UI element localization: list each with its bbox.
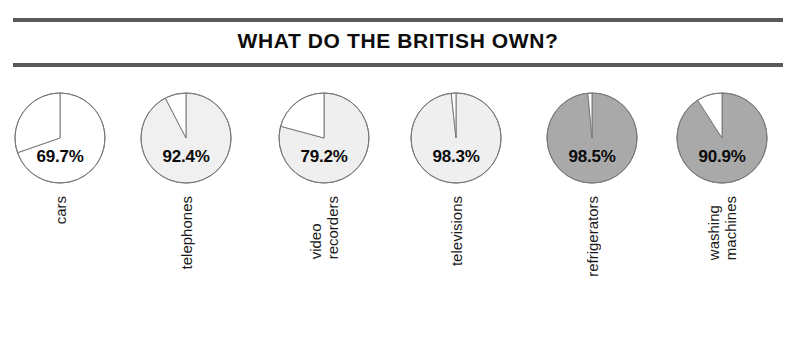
pie-category-label: cars	[0, 196, 130, 216]
pie-cell-video-recorders: 79.2%video recorders	[260, 88, 388, 343]
pie-graphic-telephones: 92.4%	[140, 92, 232, 184]
pie-svg	[546, 92, 638, 184]
pie-category-text: washing machines	[705, 196, 739, 260]
pie-cell-refrigerators: 98.5%refrigerators	[528, 88, 656, 343]
pie-svg	[14, 92, 106, 184]
pie-cell-cars: 69.7%cars	[0, 88, 124, 343]
title-rule-top	[13, 18, 783, 22]
pie-category-label: televisions	[386, 196, 526, 216]
pie-svg	[676, 92, 768, 184]
pie-graphic-televisions: 98.3%	[410, 92, 502, 184]
pie-graphic-refrigerators: 98.5%	[546, 92, 638, 184]
pie-category-text: telephones	[178, 196, 195, 269]
pie-svg	[278, 92, 370, 184]
pie-cell-washing-machines: 90.9%washing machines	[658, 88, 786, 343]
pie-category-text: cars	[52, 196, 69, 224]
pie-svg	[410, 92, 502, 184]
pie-category-label: video recorders	[254, 196, 394, 216]
title-rule-bottom	[13, 63, 783, 67]
pie-category-text: refrigerators	[584, 196, 601, 277]
pie-category-label: refrigerators	[522, 196, 662, 216]
pie-cell-telephones: 92.4%telephones	[122, 88, 250, 343]
pie-cell-televisions: 98.3%televisions	[392, 88, 520, 343]
chart-title: WHAT DO THE BRITISH OWN?	[13, 24, 783, 58]
pie-category-text: televisions	[448, 196, 465, 266]
pie-chart-row: 69.7%cars92.4%telephones79.2%video recor…	[0, 88, 806, 343]
pie-category-text: video recorders	[307, 196, 341, 259]
pie-svg	[140, 92, 232, 184]
pie-graphic-video-recorders: 79.2%	[278, 92, 370, 184]
title-block: WHAT DO THE BRITISH OWN?	[13, 18, 783, 68]
pie-graphic-cars: 69.7%	[14, 92, 106, 184]
chart-figure: WHAT DO THE BRITISH OWN? 69.7%cars92.4%t…	[0, 0, 806, 343]
pie-category-label: telephones	[116, 196, 256, 216]
pie-category-label: washing machines	[652, 196, 792, 216]
pie-graphic-washing-machines: 90.9%	[676, 92, 768, 184]
